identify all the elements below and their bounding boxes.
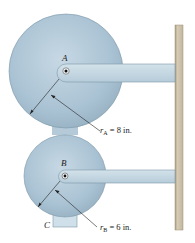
arm-a [57, 64, 175, 82]
label-a: A [61, 53, 68, 63]
wall [175, 25, 183, 230]
pin-b-icon [62, 173, 68, 179]
radius-a-label: rA = 8 in. [100, 125, 132, 136]
pulley-diagram: A B C rA = 8 in. rB = 6 in. [0, 0, 195, 243]
pin-a-icon [63, 68, 69, 74]
label-c: C [44, 220, 51, 230]
label-b: B [61, 158, 67, 168]
arm-b [59, 170, 176, 183]
radius-b-label: rB = 6 in. [100, 222, 131, 233]
